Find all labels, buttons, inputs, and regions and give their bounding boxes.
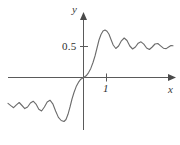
plot-figure: y x 0.5 1 xyxy=(0,0,180,145)
y-axis-label: y xyxy=(72,4,77,15)
y-axis-arrow-icon xyxy=(80,12,87,20)
x-axis-arrow-icon xyxy=(168,74,176,81)
x-tick-label-one: 1 xyxy=(103,83,109,94)
plot-canvas xyxy=(0,0,180,145)
y-tick-label-half: 0.5 xyxy=(62,41,76,52)
x-axis-label: x xyxy=(168,84,173,95)
function-curve xyxy=(8,30,173,122)
